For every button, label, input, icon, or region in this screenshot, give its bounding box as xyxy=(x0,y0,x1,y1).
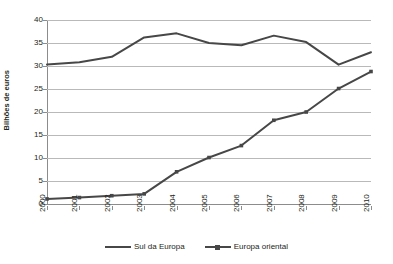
x-tick-mark xyxy=(209,206,210,210)
x-tick-mark xyxy=(241,206,242,210)
x-tick-label: 2002 xyxy=(104,194,112,212)
data-point-marker xyxy=(304,110,308,114)
legend-item-1[interactable]: Europa oriental xyxy=(205,243,288,251)
y-tick-label: 25 xyxy=(3,85,43,93)
y-tick-label: 20 xyxy=(3,108,43,116)
x-tick-mark xyxy=(306,206,307,210)
series-line-1 xyxy=(47,72,371,199)
x-tick-label: 2008 xyxy=(298,194,306,212)
plot-area xyxy=(47,20,371,204)
x-tick-label: 2007 xyxy=(266,194,274,212)
x-tick-label: 2009 xyxy=(331,194,339,212)
y-tick-label: 35 xyxy=(3,39,43,47)
x-tick-label: 2001 xyxy=(71,194,79,212)
y-tick-label: 10 xyxy=(3,154,43,162)
legend-swatch-icon xyxy=(205,243,231,251)
chart-legend: Sul da EuropaEuropa oriental xyxy=(0,243,393,251)
legend-swatch-icon xyxy=(105,243,131,251)
x-tick-mark xyxy=(47,206,48,210)
chart-title: 2000-2010 xyxy=(0,0,393,1)
x-axis-tick-labels: 2000200120022003200420052006200720082009… xyxy=(47,206,371,242)
x-tick-mark xyxy=(371,206,372,210)
x-tick-label: 2010 xyxy=(363,194,371,212)
legend-label: Europa oriental xyxy=(234,243,288,251)
data-point-marker xyxy=(337,87,341,91)
x-tick-label: 2000 xyxy=(39,194,47,212)
data-point-marker xyxy=(369,70,373,74)
series-line-0 xyxy=(47,33,371,64)
y-tick-label: 0 xyxy=(3,200,43,208)
y-tick-label: 15 xyxy=(3,131,43,139)
data-point-marker xyxy=(207,156,211,160)
x-tick-label: 2003 xyxy=(136,194,144,212)
data-point-marker xyxy=(272,118,276,122)
x-tick-label: 2004 xyxy=(169,194,177,212)
x-tick-label: 2006 xyxy=(233,194,241,212)
legend-label: Sul da Europa xyxy=(134,243,185,251)
y-tick-label: 30 xyxy=(3,62,43,70)
gridline xyxy=(47,204,371,205)
data-point-marker xyxy=(240,144,244,148)
series-lines xyxy=(47,20,371,204)
y-axis-tick-labels: 0510152025303540 xyxy=(0,20,43,204)
x-tick-mark xyxy=(79,206,80,210)
y-tick-label: 40 xyxy=(3,16,43,24)
x-tick-label: 2005 xyxy=(201,194,209,212)
y-tick-label: 5 xyxy=(3,177,43,185)
chart-container: 2000-2010 Bilhões de euros 0510152025303… xyxy=(0,0,393,264)
x-tick-mark xyxy=(144,206,145,210)
data-point-marker xyxy=(175,170,179,174)
legend-item-0[interactable]: Sul da Europa xyxy=(105,243,185,251)
